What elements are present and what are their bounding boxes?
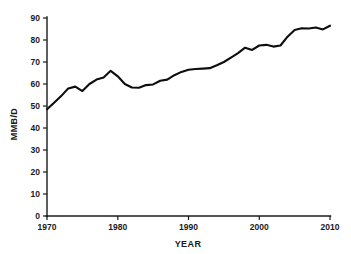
y-tick-label-0: 0	[35, 211, 40, 221]
x-axis-title: YEAR	[175, 239, 202, 249]
y-tick-label-70: 70	[31, 57, 41, 67]
x-tick-label-1970: 1970	[38, 222, 57, 232]
y-tick-label-30: 30	[31, 145, 41, 155]
x-tick-label-2010: 2010	[321, 222, 340, 232]
y-axis-title: MMB/D	[9, 108, 19, 141]
line-chart: 90 80 70 60 50 40 30 20 10 0 1970 1980 1…	[0, 0, 351, 254]
y-tick-label-20: 20	[31, 167, 41, 177]
data-series-world-oil-production	[47, 26, 330, 110]
y-tick-label-50: 50	[31, 101, 41, 111]
y-tick-label-90: 90	[31, 13, 41, 23]
x-tick-label-1990: 1990	[179, 222, 198, 232]
x-tick-label-2000: 2000	[250, 222, 269, 232]
y-tick-label-80: 80	[31, 35, 41, 45]
y-tick-label-10: 10	[31, 189, 41, 199]
chart-figure: 90 80 70 60 50 40 30 20 10 0 1970 1980 1…	[0, 0, 351, 254]
y-tick-label-60: 60	[31, 79, 41, 89]
x-tick-label-1980: 1980	[108, 222, 127, 232]
y-tick-label-40: 40	[31, 123, 41, 133]
